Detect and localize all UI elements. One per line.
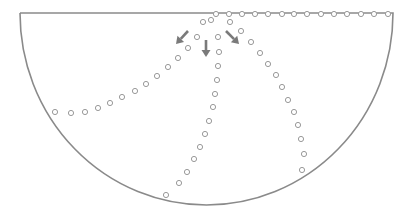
dot bbox=[214, 77, 219, 82]
dot bbox=[184, 169, 189, 174]
dot bbox=[279, 84, 284, 89]
dot bbox=[304, 11, 309, 16]
right-path-dots bbox=[238, 28, 306, 172]
dot bbox=[331, 11, 336, 16]
dot bbox=[248, 39, 253, 44]
top-edge-dots bbox=[213, 11, 390, 16]
dot bbox=[318, 11, 323, 16]
dot bbox=[273, 72, 278, 77]
dot bbox=[95, 105, 100, 110]
dot bbox=[163, 192, 168, 197]
dot bbox=[132, 88, 137, 93]
dot bbox=[299, 167, 304, 172]
dot bbox=[227, 19, 232, 24]
dot bbox=[215, 34, 220, 39]
dot bbox=[68, 110, 73, 115]
dot bbox=[371, 11, 376, 16]
dot bbox=[265, 61, 270, 66]
junction-dots bbox=[200, 17, 232, 24]
dot bbox=[358, 11, 363, 16]
dot bbox=[295, 122, 300, 127]
dot bbox=[197, 144, 202, 149]
dot bbox=[194, 34, 199, 39]
dot bbox=[215, 63, 220, 68]
direction-arrows bbox=[176, 31, 239, 57]
dot bbox=[143, 81, 148, 86]
dot bbox=[191, 156, 196, 161]
dot bbox=[257, 50, 262, 55]
dot bbox=[285, 97, 290, 102]
dot bbox=[208, 17, 213, 22]
dot bbox=[298, 136, 303, 141]
dot bbox=[216, 49, 221, 54]
dot bbox=[200, 19, 205, 24]
dot bbox=[82, 109, 87, 114]
arrow-down-left-icon bbox=[176, 31, 188, 44]
dot bbox=[210, 104, 215, 109]
dot bbox=[176, 180, 181, 185]
dot bbox=[185, 45, 190, 50]
dot bbox=[265, 11, 270, 16]
dot bbox=[238, 28, 243, 33]
dot bbox=[165, 64, 170, 69]
dot bbox=[213, 11, 218, 16]
dot bbox=[119, 94, 124, 99]
dot-paths bbox=[52, 11, 390, 197]
dot bbox=[279, 11, 284, 16]
dot bbox=[226, 11, 231, 16]
dot bbox=[239, 11, 244, 16]
dot bbox=[212, 91, 217, 96]
dot bbox=[107, 100, 112, 105]
arrow-down-icon bbox=[202, 40, 211, 57]
dot bbox=[52, 109, 57, 114]
left-path-dots bbox=[52, 34, 199, 115]
dot bbox=[301, 151, 306, 156]
dot bbox=[344, 11, 349, 16]
dot bbox=[154, 73, 159, 78]
dot bbox=[385, 11, 390, 16]
middle-path-dots bbox=[163, 34, 221, 197]
dot bbox=[252, 11, 257, 16]
arrow-down-right-icon bbox=[226, 31, 239, 44]
dot bbox=[291, 11, 296, 16]
dot bbox=[206, 118, 211, 123]
dot bbox=[291, 109, 296, 114]
dot bbox=[175, 55, 180, 60]
flow-diagram bbox=[0, 0, 411, 220]
dot bbox=[202, 131, 207, 136]
